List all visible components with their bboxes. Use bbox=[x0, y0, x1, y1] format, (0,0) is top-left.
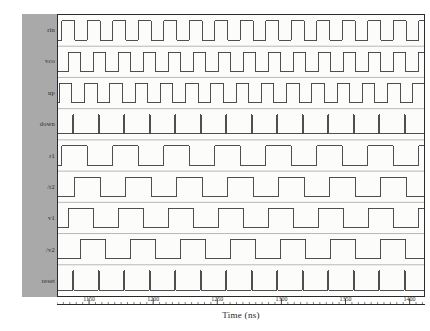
time-axis-ticks bbox=[57, 295, 425, 309]
trace-down bbox=[58, 115, 424, 134]
x-tick-label: 1350 bbox=[340, 296, 352, 303]
trace-up bbox=[58, 83, 424, 102]
trace-v1 bbox=[58, 208, 424, 227]
signal-label-v2: /v2 bbox=[22, 246, 55, 254]
waveform-traces bbox=[58, 15, 424, 296]
time-axis: 115012001250130013501400 bbox=[57, 295, 425, 309]
x-axis-title: Time (ns) bbox=[57, 310, 425, 320]
signal-label-gutter: rinvcoupdownr1/r2v1/v2reset bbox=[22, 14, 57, 297]
x-tick-label: 1400 bbox=[404, 296, 416, 303]
waveform-plot-area[interactable] bbox=[57, 14, 425, 297]
trace-v2 bbox=[58, 239, 424, 258]
signal-label-vco: vco bbox=[22, 57, 55, 65]
trace-r2 bbox=[58, 177, 424, 196]
waveform-viewer: rinvcoupdownr1/r2v1/v2reset 115012001250… bbox=[0, 0, 430, 331]
x-tick-label: 1200 bbox=[147, 296, 159, 303]
x-tick-label: 1250 bbox=[211, 296, 223, 303]
trace-r1 bbox=[58, 146, 424, 165]
x-tick-label: 1150 bbox=[83, 296, 95, 303]
signal-label-v1: v1 bbox=[22, 214, 55, 222]
x-tick-label: 1300 bbox=[275, 296, 287, 303]
signal-label-r1: r1 bbox=[22, 152, 55, 160]
trace-reset bbox=[58, 271, 424, 290]
trace-vco bbox=[58, 52, 424, 71]
trace-rin bbox=[58, 21, 424, 40]
signal-label-reset: reset bbox=[22, 277, 55, 285]
signal-label-rin: rin bbox=[22, 26, 55, 34]
signal-label-down: down bbox=[22, 120, 55, 128]
signal-label-up: up bbox=[22, 89, 55, 97]
signal-label-r2: /r2 bbox=[22, 183, 55, 191]
